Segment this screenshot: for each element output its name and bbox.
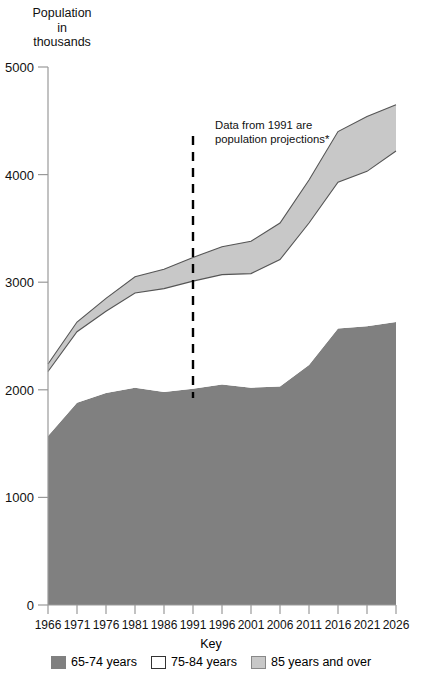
x-tick-label: 1971 (64, 618, 91, 632)
x-tick-label: 2026 (383, 618, 410, 632)
x-tick-label: 1991 (180, 618, 207, 632)
plot-area: 0100020003000400050001966197119761981198… (0, 0, 422, 680)
x-tick-label: 2021 (354, 618, 381, 632)
y-tick-label: 5000 (5, 60, 34, 75)
chart-legend: 65-74 years75-84 years85 years and over (0, 655, 422, 669)
annotation-line-1: Data from 1991 are (215, 119, 312, 131)
y-tick-label: 0 (27, 598, 34, 613)
x-tick-label: 1966 (35, 618, 62, 632)
x-tick-label: 2016 (325, 618, 352, 632)
legend-swatch-icon (151, 656, 166, 669)
x-tick-label: 2006 (267, 618, 294, 632)
y-tick-label: 2000 (5, 383, 34, 398)
legend-item-label: 85 years and over (271, 655, 371, 669)
x-tick-label: 1986 (151, 618, 178, 632)
x-tick-label: 2011 (296, 618, 322, 632)
legend-swatch-icon (251, 656, 266, 669)
population-area-chart: Population in thousands 0100020003000400… (0, 0, 422, 680)
annotation-line-2: population projections* (215, 133, 330, 145)
legend-item-label: 65-74 years (71, 655, 137, 669)
y-tick-label: 1000 (5, 490, 34, 505)
x-tick-label: 1976 (93, 618, 120, 632)
series-layer (48, 105, 396, 605)
y-tick-label: 4000 (5, 168, 34, 183)
x-tick-label: 2001 (238, 618, 265, 632)
legend-swatch-icon (51, 656, 66, 669)
y-tick-label: 3000 (5, 275, 34, 290)
legend-item-1: 75-84 years (151, 655, 237, 669)
x-tick-label: 1996 (209, 618, 236, 632)
legend-item-label: 75-84 years (171, 655, 237, 669)
legend-title: Key (0, 637, 422, 651)
legend-item-0: 65-74 years (51, 655, 137, 669)
legend-item-2: 85 years and over (251, 655, 371, 669)
x-tick-label: 1981 (122, 618, 149, 632)
